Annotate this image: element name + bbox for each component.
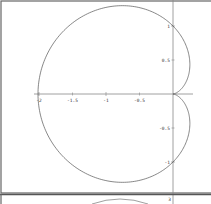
panel2-y-label: 3 [168,197,171,202]
y-tick-label: -0.5 [159,126,170,131]
cardioid-chart: -2 -1.5 -1 -0.5 1 0.5 -0.5 -1 3 [0,0,211,204]
plot-frame: -2 -1.5 -1 -0.5 1 0.5 -0.5 -1 3 [0,0,211,204]
panel2-curve [92,199,148,204]
x-tick-label: -2 [36,98,42,103]
x-tick-label: -1.5 [67,98,78,103]
y-tick-label: 0.5 [162,58,170,63]
y-tick-label: 1 [167,24,170,29]
y-tick-label: -1 [165,160,171,165]
x-tick-label: -1 [103,98,109,103]
x-tick-label: -0.5 [134,98,145,103]
